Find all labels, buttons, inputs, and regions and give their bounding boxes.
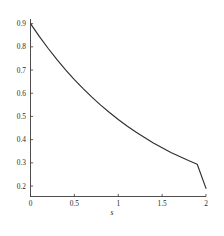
y-tick-label: 0.8 (17, 42, 27, 51)
y-tick-label: 0.7 (17, 66, 27, 75)
x-tick-label: 1.5 (158, 199, 168, 208)
y-tick-label: 0.3 (17, 158, 27, 167)
y-tick-label: 0.4 (17, 135, 27, 144)
x-tick-label: 0 (29, 199, 33, 208)
x-tick-label: 0.5 (70, 199, 80, 208)
x-tick-label: 1 (116, 199, 120, 208)
chart-figure: 0.20.30.40.50.60.70.80.9 00.511.52 s (0, 0, 224, 236)
y-tick-label: 0.2 (17, 182, 27, 191)
x-tick-label: 2 (204, 199, 208, 208)
y-tick-label: 0.5 (17, 112, 27, 121)
y-tick-label: 0.9 (17, 19, 27, 28)
chart-background (0, 0, 224, 236)
x-axis-title: s (111, 208, 114, 217)
plot-area: 0.20.30.40.50.60.70.80.9 00.511.52 s (0, 0, 224, 236)
y-tick-label: 0.6 (17, 89, 27, 98)
